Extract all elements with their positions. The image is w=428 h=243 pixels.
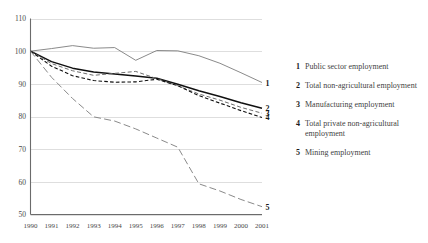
chart-figure: 1101009080706050 19901991199219931994199… <box>0 0 428 243</box>
chart-plot-container: 1101009080706050 19901991199219931994199… <box>0 0 272 243</box>
legend-item-label: Public sector employment <box>305 62 389 72</box>
x-tick-label: 2000 <box>234 222 249 230</box>
legend-item-label: Manufacturing employment <box>305 100 395 110</box>
series-end-labels-group: 12345 <box>266 79 270 212</box>
series-end-label-5: 5 <box>266 203 270 212</box>
x-tick-label: 1992 <box>66 222 81 230</box>
x-tick-label: 1993 <box>87 222 102 230</box>
legend-item-number: 1 <box>296 62 305 72</box>
x-tick-label: 2001 <box>255 222 270 230</box>
line-chart-svg: 1101009080706050 19901991199219931994199… <box>0 0 272 243</box>
legend-item-number: 5 <box>296 148 305 158</box>
legend-item-5: 5Mining employment <box>296 148 428 158</box>
legend-item-number: 3 <box>296 100 305 110</box>
legend-item-label: Total non-agricultural employment <box>305 81 417 91</box>
x-tick-label: 1990 <box>24 222 39 230</box>
legend-item-4: 4Total private non-agricultural employme… <box>296 119 428 139</box>
y-tick-label: 70 <box>19 145 27 154</box>
x-tick-labels-group: 1990199119921993199419951996199719981999… <box>24 222 270 230</box>
series-end-label-4: 4 <box>266 113 270 122</box>
legend-item-label: Total private non-agricultural employmen… <box>305 119 428 139</box>
legend-item-label: Mining employment <box>305 148 371 158</box>
legend-item-3: 3Manufacturing employment <box>296 100 428 110</box>
x-tick-label: 1995 <box>129 222 144 230</box>
x-tick-label: 1999 <box>213 222 228 230</box>
legend-item-1: 1Public sector employment <box>296 62 428 72</box>
legend-item-number: 4 <box>296 119 305 129</box>
x-tick-label: 1998 <box>192 222 207 230</box>
series-line-5 <box>31 51 263 206</box>
x-tick-label: 1997 <box>171 222 186 230</box>
legend-item-2: 2Total non-agricultural employment <box>296 81 428 91</box>
y-tick-label: 90 <box>19 80 27 89</box>
y-tick-labels-group: 1101009080706050 <box>15 14 27 219</box>
gridlines-group <box>31 20 263 216</box>
y-tick-label: 100 <box>15 47 27 56</box>
series-line-3 <box>31 51 263 113</box>
axes-group <box>31 19 263 215</box>
x-tick-label: 1991 <box>45 222 60 230</box>
y-tick-label: 60 <box>19 178 27 187</box>
x-tick-label: 1996 <box>150 222 165 230</box>
series-end-label-1: 1 <box>266 79 270 88</box>
x-tick-label: 1994 <box>108 222 123 230</box>
chart-legend: 1Public sector employment2Total non-agri… <box>296 62 428 167</box>
legend-item-number: 2 <box>296 81 305 91</box>
y-tick-label: 110 <box>15 14 26 23</box>
y-tick-label: 80 <box>19 112 27 121</box>
y-tick-label: 50 <box>19 210 27 219</box>
series-line-2 <box>31 51 263 108</box>
